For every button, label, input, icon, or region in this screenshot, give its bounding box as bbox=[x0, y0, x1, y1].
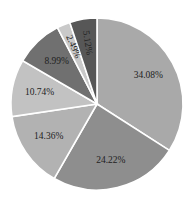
slice-label: 24.22% bbox=[96, 155, 125, 165]
pie-chart: 34.08%24.22%14.36%10.74%8.99%2.49%5.12% bbox=[0, 0, 193, 206]
slice-label: 14.36% bbox=[34, 131, 63, 141]
slice-label: 8.99% bbox=[44, 56, 69, 66]
slice-label: 34.08% bbox=[134, 70, 163, 80]
slice-label: 10.74% bbox=[25, 87, 54, 97]
